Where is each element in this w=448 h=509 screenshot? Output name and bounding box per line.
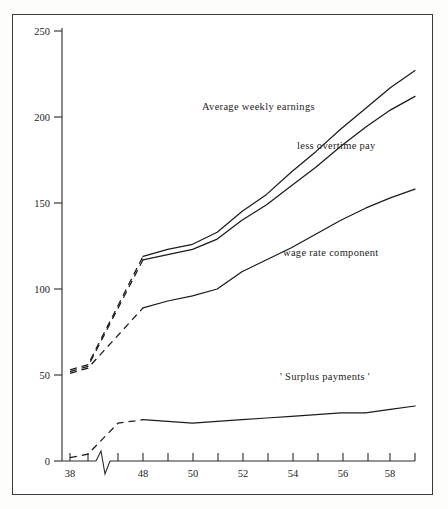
series-annotation-surplus-payments: ' Surplus payments ' xyxy=(280,371,370,382)
x-tick-label-48: 48 xyxy=(138,468,149,479)
y-tick-label-50: 50 xyxy=(40,370,51,381)
series-line-1-solid xyxy=(143,96,415,259)
series-line-0-dashed xyxy=(70,256,143,370)
x-tick-label-56: 56 xyxy=(338,468,349,479)
series-layer xyxy=(70,71,415,458)
x-tick-label-38: 38 xyxy=(65,468,76,479)
series-annotation-less-overtime-pay: less overtime pay xyxy=(297,140,376,151)
y-tick-label-0: 0 xyxy=(45,456,50,467)
y-tick-label-150: 150 xyxy=(34,198,50,209)
y-tick-label-250: 250 xyxy=(34,26,50,37)
series-line-3-dashed xyxy=(70,420,143,458)
x-tick-label-58: 58 xyxy=(385,468,396,479)
x-tick-label-54: 54 xyxy=(288,468,299,479)
x-tick-label-52: 52 xyxy=(238,468,249,479)
x-axis-break-zigzag xyxy=(96,451,110,474)
y-tick-label-100: 100 xyxy=(34,284,50,295)
series-annotation-average-weekly-earnings: Average weekly earnings xyxy=(202,101,315,112)
series-line-1-dashed xyxy=(70,260,143,372)
y-axis: 250 200 150 100 50 0 xyxy=(34,26,62,467)
y-tick-label-200: 200 xyxy=(34,112,50,123)
x-axis: 38 48 50 52 54 56 58 xyxy=(62,451,415,479)
chart-stage: 250 200 150 100 50 0 38 xyxy=(0,0,448,509)
series-line-3-solid xyxy=(143,406,415,423)
series-line-2-dashed xyxy=(70,308,143,373)
series-annotation-wage-rate-component: wage rate component xyxy=(283,247,379,258)
series-line-0-solid xyxy=(143,71,415,257)
x-tick-label-50: 50 xyxy=(188,468,199,479)
chart-canvas: 250 200 150 100 50 0 38 xyxy=(0,0,448,509)
